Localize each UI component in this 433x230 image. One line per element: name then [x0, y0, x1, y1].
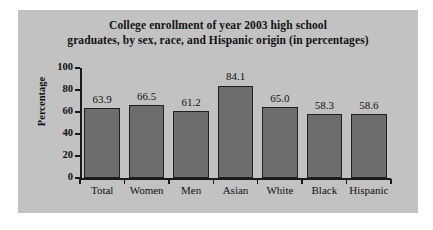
- y-axis-tick-label: 60: [33, 105, 73, 116]
- x-axis-tick-label: Hispanic: [337, 184, 401, 196]
- x-axis-spine: [80, 178, 391, 180]
- y-axis-tick-label: 80: [33, 83, 73, 94]
- chart-title-line-1: College enrollment of year 2003 high sch…: [109, 19, 327, 31]
- bar: [129, 105, 165, 178]
- bar: [307, 114, 343, 178]
- bar: [84, 108, 120, 178]
- chart-title-line-2: graduates, by sex, race, and Hispanic or…: [18, 33, 418, 48]
- bar-series: [80, 68, 391, 178]
- y-axis-tick-label: 20: [33, 149, 73, 160]
- bar: [218, 86, 254, 179]
- y-axis-tick-labels: 020406080100: [31, 68, 73, 178]
- bar: [351, 114, 387, 178]
- chart-figure: College enrollment of year 2003 high sch…: [18, 10, 418, 213]
- y-axis-tick-label: 0: [33, 171, 73, 182]
- y-axis-tick-label: 100: [33, 61, 73, 72]
- chart-title: College enrollment of year 2003 high sch…: [18, 18, 418, 48]
- bar: [173, 111, 209, 178]
- y-axis-tick-label: 40: [33, 127, 73, 138]
- bar-value-label: 61.2: [161, 96, 221, 108]
- bar-value-label: 58.6: [339, 99, 399, 111]
- bar: [262, 107, 298, 179]
- bar-value-label: 84.1: [206, 70, 266, 82]
- plot-area: 020406080100 63.966.561.284.165.058.358.…: [80, 68, 390, 178]
